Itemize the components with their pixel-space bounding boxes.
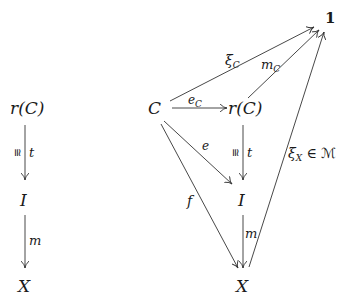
label-right-t: t (247, 145, 252, 160)
label-left-t: t (29, 145, 34, 160)
label-e: e (202, 139, 209, 153)
node-left-X: X (18, 276, 30, 296)
label-xiC-base: ξ (225, 52, 233, 68)
iso-left-t: ≅ (11, 148, 24, 157)
label-xiC-sub: C (233, 60, 240, 70)
label-eC: eC (188, 93, 202, 109)
label-mC-sub: C (273, 64, 280, 74)
label-right-m: m (245, 226, 257, 241)
node-left-I: I (20, 190, 27, 210)
label-xiC: ξC (225, 52, 240, 70)
node-right-X: X (236, 276, 248, 296)
label-eC-sub: C (195, 99, 202, 109)
node-right-rC: r(C) (228, 98, 262, 118)
arrow-e (164, 121, 232, 184)
label-f: f (187, 193, 192, 209)
label-mC-base: m (261, 57, 273, 72)
node-terminal: 1 (325, 9, 335, 27)
label-xiX-suffix: ∈ ℳ (302, 145, 336, 161)
node-left-rC: r(C) (10, 98, 44, 118)
iso-right-t: ≅ (229, 148, 242, 157)
arrow-f (161, 124, 238, 268)
label-mC: mC (261, 57, 280, 74)
node-right-I: I (238, 190, 245, 210)
arrow-xiC (170, 27, 314, 101)
arrow-mC (248, 30, 319, 98)
label-xiX: ξX ∈ ℳ (288, 145, 336, 163)
node-C: C (148, 98, 161, 118)
label-left-m: m (29, 233, 41, 248)
label-xiX-base: ξ (288, 145, 296, 161)
